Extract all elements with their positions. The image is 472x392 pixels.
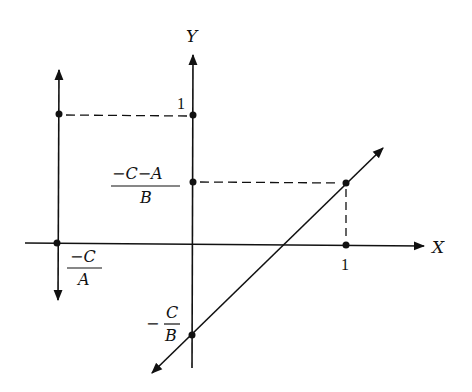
y-point-numerator: −C−A [112,164,163,183]
point-on-line [343,180,350,187]
y-point-denominator: B [139,188,152,207]
x-axis [25,243,424,246]
y-tick-one: 1 [177,95,185,112]
y-axis [192,55,193,368]
y-axis-label: Y [186,26,199,46]
point-x-intercept [54,240,61,247]
y-intercept-numerator: C [166,303,178,322]
dashed-guide-point-horizontal [200,182,340,183]
y-intercept-sign: − [146,314,159,333]
x-intercept-denominator: A [76,270,90,289]
vertical-line-x-intercept [58,70,59,300]
point-y-value [190,179,197,186]
point-y-one [190,112,197,119]
point-x-one [343,242,350,249]
x-tick-one: 1 [341,256,349,273]
point-y-intercept [189,332,196,339]
point-left-top [56,111,63,118]
x-axis-label: X [430,237,445,257]
dashed-guide-y1 [66,115,187,116]
y-intercept-denominator: B [164,326,177,345]
line-parametrization-diagram: Y X 1 1 −C−A B −C A − C B [0,0,472,392]
x-intercept-numerator: −C [70,247,96,266]
